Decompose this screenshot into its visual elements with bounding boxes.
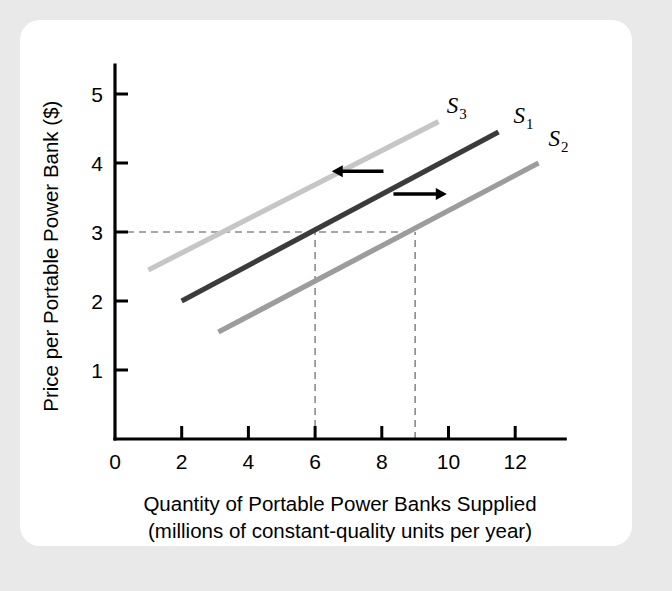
supply-shift-chart: S1S2S312345024681012Price per Portable P…	[20, 20, 632, 546]
supply-curve-s1	[182, 132, 499, 301]
x-tick-label-10: 10	[437, 450, 460, 473]
curve-label-s3: S3	[447, 93, 467, 122]
x-tick-label-12: 12	[504, 450, 527, 473]
x-tick-label-6: 6	[309, 450, 321, 473]
x-tick-label-0: 0	[109, 450, 121, 473]
x-axis-title-line1: Quantity of Portable Power Banks Supplie…	[143, 492, 536, 515]
curve-label-s2: S2	[549, 126, 569, 155]
x-tick-label-4: 4	[243, 450, 255, 473]
x-axis-title-line2: (millions of constant-quality units per …	[148, 519, 532, 542]
supply-curve-s2	[218, 163, 538, 332]
chart-svg: S1S2S312345024681012Price per Portable P…	[20, 20, 632, 546]
supply-curve-s3	[148, 122, 438, 270]
x-tick-label-2: 2	[176, 450, 188, 473]
y-tick-label-4: 4	[91, 152, 103, 175]
figure-card: S1S2S312345024681012Price per Portable P…	[20, 20, 632, 546]
y-axis-title: Price per Portable Power Bank ($)	[39, 101, 62, 412]
x-tick-label-8: 8	[376, 450, 388, 473]
y-tick-label-1: 1	[91, 359, 103, 382]
y-tick-label-5: 5	[91, 83, 103, 106]
y-tick-label-3: 3	[91, 221, 103, 244]
decrease-supply-arrow	[332, 165, 384, 177]
y-tick-label-2: 2	[91, 290, 103, 313]
curve-label-s1: S1	[514, 103, 534, 132]
increase-supply-arrow	[393, 188, 446, 200]
